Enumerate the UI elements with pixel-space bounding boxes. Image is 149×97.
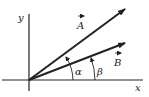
vector-b-label: B <box>113 53 121 68</box>
vector-a-label: A <box>76 16 84 31</box>
alpha-label: α <box>75 66 82 77</box>
beta-arc <box>91 58 95 80</box>
alpha-arc <box>66 57 73 80</box>
svg-text:B: B <box>113 57 121 68</box>
svg-text:A: A <box>76 20 84 31</box>
beta-label: β <box>96 66 103 77</box>
vector-diagram: y x A B α β <box>0 0 149 97</box>
x-axis-label: x <box>135 82 141 93</box>
y-axis-label: y <box>17 12 24 23</box>
